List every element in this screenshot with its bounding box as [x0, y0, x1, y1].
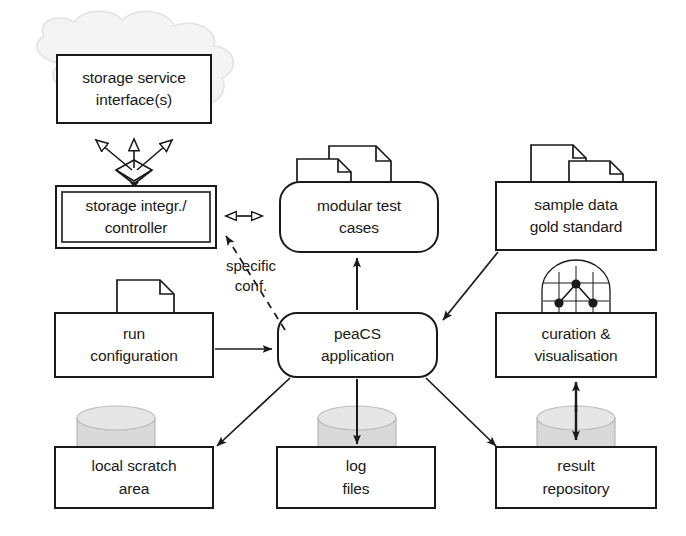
edge-peacs-to-result-repository	[426, 378, 496, 446]
node-storage-service-interfaces	[57, 55, 211, 123]
diagram-graphics	[0, 0, 686, 536]
node-local-scratch-area	[55, 406, 213, 508]
edge-sample-data-to-peacs	[443, 252, 498, 320]
diagram-canvas: storage service interface(s) storage int…	[0, 0, 686, 536]
node-run-configuration	[55, 280, 213, 377]
node-sample-data-gold-standard	[496, 145, 656, 250]
edge-controller-to-storage-service	[96, 139, 172, 188]
node-peacs-application	[278, 313, 437, 377]
node-modular-test-cases	[280, 146, 438, 252]
node-curation-visualisation	[496, 260, 656, 377]
node-storage-integrator-controller	[56, 186, 216, 248]
edge-peacs-to-controller-specific-conf	[226, 236, 285, 330]
edge-peacs-to-local-scratch-area	[217, 378, 290, 446]
